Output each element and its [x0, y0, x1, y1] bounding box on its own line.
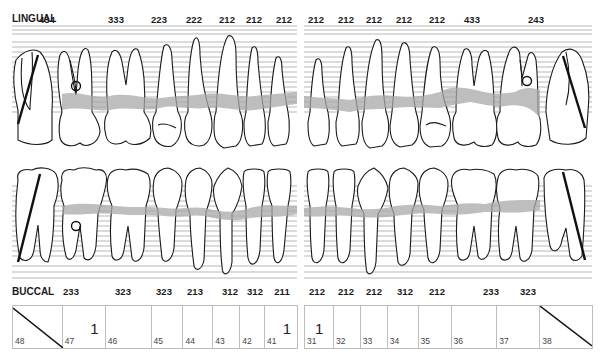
- mobility-cell-38[interactable]: 38: [540, 306, 592, 348]
- tooth-number: 36: [454, 336, 463, 346]
- tooth-44-buccal: [185, 168, 212, 269]
- tooth-number: 33: [363, 336, 372, 346]
- tooth-33-lingual: [362, 40, 389, 148]
- tooth-46-buccal: [107, 169, 150, 261]
- tooth-45-lingual: [153, 45, 182, 147]
- mobility-table-right: 13132333435363738: [304, 305, 593, 349]
- mobility-cell-42[interactable]: 42: [240, 306, 265, 348]
- tooth-34-lingual: [390, 43, 419, 147]
- mobility-cell-35[interactable]: 35: [419, 306, 452, 348]
- tooth-38-buccal: [544, 169, 585, 260]
- tooth-48-lingual: [14, 50, 53, 144]
- mobility-cell-36[interactable]: 36: [452, 306, 498, 348]
- tooth-number: 45: [154, 336, 163, 346]
- tooth-number: 34: [390, 336, 399, 346]
- tooth-37-buccal: [497, 169, 539, 261]
- tooth-number: 41: [267, 336, 276, 346]
- tooth-number: 47: [65, 336, 74, 346]
- mobility-value: 1: [283, 320, 291, 337]
- tooth-number: 43: [215, 336, 224, 346]
- mobility-table-left: 481474645444342141: [12, 305, 298, 349]
- tooth-number: 38: [542, 336, 551, 346]
- tooth-number: 35: [421, 336, 430, 346]
- tooth-number: 42: [242, 336, 251, 346]
- tooth-number: 44: [185, 336, 194, 346]
- mobility-cell-48[interactable]: 48: [13, 306, 63, 348]
- mobility-cell-41[interactable]: 141: [265, 306, 297, 348]
- tooth-35-buccal: [419, 168, 448, 263]
- tooth-number: 31: [307, 336, 316, 346]
- tooth-number: 32: [336, 336, 345, 346]
- periodontal-diagram: [0, 0, 601, 300]
- mobility-cell-43[interactable]: 43: [213, 306, 240, 348]
- tooth-number: 37: [499, 336, 508, 346]
- mobility-cell-32[interactable]: 32: [334, 306, 361, 348]
- mobility-cell-45[interactable]: 45: [152, 306, 184, 348]
- mobility-cell-33[interactable]: 33: [361, 306, 388, 348]
- mobility-value: 1: [315, 320, 323, 337]
- tooth-number: 46: [108, 336, 117, 346]
- mobility-cell-46[interactable]: 46: [106, 306, 152, 348]
- mobility-cell-44[interactable]: 44: [183, 306, 213, 348]
- tooth-number: 48: [15, 336, 24, 346]
- mobility-cell-31[interactable]: 131: [305, 306, 334, 348]
- mobility-cell-37[interactable]: 37: [497, 306, 540, 348]
- mobility-cell-47[interactable]: 147: [63, 306, 106, 348]
- mobility-cell-34[interactable]: 34: [388, 306, 419, 348]
- mobility-value: 1: [90, 320, 98, 337]
